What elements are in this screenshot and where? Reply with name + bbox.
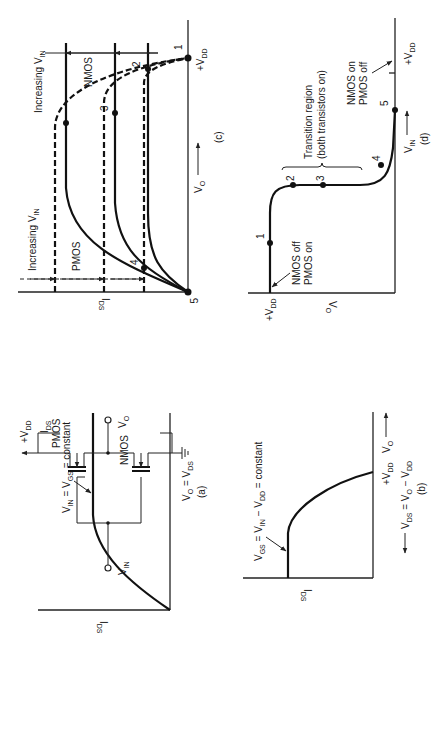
b-curve [288, 472, 373, 578]
figure-stage: 5 1 2 3 4 +VDD VO (c) IDS Increasing VIN… [0, 0, 446, 733]
d-point-2 [378, 162, 384, 168]
d-x-vdd-label: +VDD [403, 42, 416, 65]
circuit-nmos-label: NMOS [119, 435, 130, 465]
c-pmos-label: PMOS [71, 241, 82, 271]
c-point-5 [185, 289, 192, 296]
d-label-4: 2 [285, 175, 296, 181]
c-point-4 [141, 265, 147, 271]
d-label-3: 3 [315, 175, 326, 181]
c-y-label: IDS [98, 298, 111, 311]
a-curve [93, 413, 170, 610]
circuit-vo-label: VO [117, 415, 130, 428]
b-y-label: IDS [300, 589, 313, 602]
d-point-1 [392, 107, 398, 113]
b-vdd-label: +VDD [381, 462, 394, 485]
d-label-5: 1 [255, 233, 266, 239]
d-transition-line2: (both transistors on) [316, 70, 327, 159]
d-transfer-curve [270, 110, 395, 293]
d-y-label: VO [325, 301, 338, 314]
c-point-3 [112, 110, 118, 116]
c-nmos-curve-3 [148, 43, 188, 292]
c-label-5: 5 [189, 298, 200, 304]
c-intersect-top [63, 120, 69, 126]
c-label-4: 4 [129, 259, 140, 265]
d-label-2: 4 [371, 155, 382, 161]
c-point-2 [145, 66, 151, 72]
a-x-label: VO = VDS [181, 461, 194, 501]
circuit-vdd-label: +VDD [19, 420, 32, 443]
d-point-3 [320, 182, 326, 188]
panel-a-circuit: +VDD IDS PMOS NMOS VO VIN (a) [19, 415, 207, 575]
a-y-label: IDS [96, 621, 109, 634]
a-caption: (a) [196, 486, 207, 498]
cmos-inverter-figure: 5 1 2 3 4 +VDD VO (c) IDS Increasing VIN… [0, 0, 446, 733]
c-pmos-curve-3 [144, 58, 188, 292]
c-pmos-curve-2 [104, 58, 188, 292]
c-label-3: 3 [99, 105, 110, 111]
panel-d: 1 2 3 4 5 Transition region (both transi… [248, 18, 430, 321]
d-nmos-off-line1: NMOS off [291, 241, 302, 285]
circuit-vin-terminal[interactable] [105, 565, 111, 571]
d-nmos-on-line1: NMOS on [346, 61, 357, 105]
b-annotation: VGS = VIN − VDD = constant [253, 442, 266, 561]
c-increasing-vin-pmos: Increasing VIN [27, 208, 40, 271]
c-point-1 [185, 55, 192, 62]
c-vdd-label: +VDD [195, 48, 208, 71]
panel-b: VGS = VIN − VDD = constant +VDD VO VDS =… [243, 412, 427, 602]
b-x-label: VO [381, 440, 394, 453]
d-point-5 [267, 240, 273, 246]
b-caption: (b) [416, 483, 427, 495]
d-nmos-off-line2: PMOS on [303, 242, 314, 285]
circuit-vin-label: VIN [117, 561, 130, 575]
b-vds-eq: VDS = VO − VDD [400, 461, 413, 529]
circuit-pmos-label: PMOS [51, 418, 62, 448]
c-increasing-vin-nmos: Increasing VIN [33, 50, 46, 113]
d-label-1: 5 [379, 100, 390, 106]
d-caption: (d) [419, 133, 430, 145]
c-nmos-curve-2 [115, 43, 188, 292]
nmos-transistor [108, 453, 172, 471]
c-label-1: 1 [173, 44, 184, 50]
ground-icon [172, 447, 188, 459]
d-y-vdd-label: +VDD [264, 298, 277, 321]
c-caption: (c) [213, 131, 224, 143]
b-annotation-arrow [266, 537, 286, 551]
c-x-label: VO [193, 180, 206, 193]
c-nmos-label: NMOS [83, 57, 94, 87]
d-x-label: VIN [403, 139, 416, 153]
d-transition-brace [282, 163, 362, 170]
d-transition-line1: Transition region [303, 85, 314, 159]
d-nmos-on-arrow [372, 61, 392, 73]
d-nmos-off-arrow [272, 273, 290, 287]
c-label-2: 2 [131, 61, 142, 67]
d-nmos-on-line2: PMOS off [358, 62, 369, 105]
d-point-4 [290, 182, 296, 188]
panel-c: 5 1 2 3 4 +VDD VO (c) IDS Increasing VIN… [18, 20, 224, 311]
circuit-vo-terminal[interactable] [105, 417, 111, 423]
